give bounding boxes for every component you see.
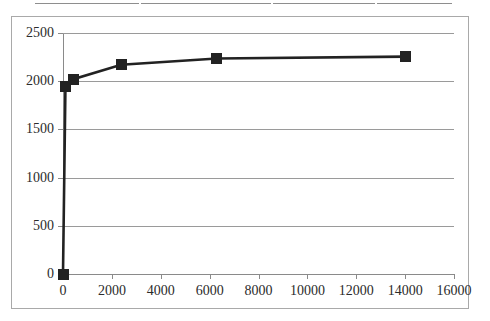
- y-tick-label-500: 500: [33, 219, 54, 233]
- x-tick-label-0: 0: [60, 284, 67, 298]
- chart-frame: 05001000150020002500 0200040006000800010…: [11, 16, 469, 309]
- y-tick-label-2000: 2000: [26, 74, 54, 88]
- data-point-5: [400, 51, 411, 62]
- data-point-4: [211, 53, 222, 64]
- y-tick-label-0: 0: [47, 267, 54, 281]
- x-tick-10000: [307, 274, 308, 279]
- rule-gap: [271, 3, 273, 4]
- x-tick-2000: [112, 274, 113, 279]
- x-tick-14000: [405, 274, 406, 279]
- x-tick-label-2000: 2000: [98, 284, 126, 298]
- x-tick-12000: [356, 274, 357, 279]
- data-point-3: [116, 59, 127, 70]
- x-tick-label-10000: 10000: [290, 284, 325, 298]
- x-tick-label-14000: 14000: [388, 284, 423, 298]
- x-tick-8000: [259, 274, 260, 279]
- y-tick-label-1000: 1000: [26, 171, 54, 185]
- x-tick-6000: [210, 274, 211, 279]
- data-point-0: [58, 269, 69, 280]
- x-tick-label-8000: 8000: [245, 284, 273, 298]
- x-tick-label-12000: 12000: [339, 284, 374, 298]
- rule-gap: [375, 3, 377, 4]
- x-tick-label-6000: 6000: [196, 284, 224, 298]
- scan-artifact-rule: [35, 3, 452, 4]
- x-tick-16000: [454, 274, 455, 279]
- plot-area: 05001000150020002500 0200040006000800010…: [63, 33, 454, 274]
- x-tick-label-4000: 4000: [147, 284, 175, 298]
- y-tick-label-1500: 1500: [26, 122, 54, 136]
- rule-gap: [139, 3, 141, 4]
- x-tick-label-16000: 16000: [437, 284, 472, 298]
- x-tick-4000: [161, 274, 162, 279]
- y-tick-label-2500: 2500: [26, 26, 54, 40]
- data-point-2: [68, 74, 79, 85]
